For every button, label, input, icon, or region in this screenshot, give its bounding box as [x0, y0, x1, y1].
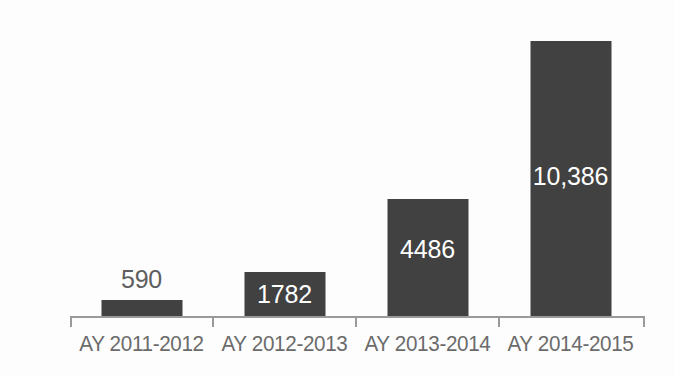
- x-axis-label-1: AY 2012-2013: [216, 333, 353, 357]
- bar-0[interactable]: [101, 300, 182, 317]
- x-axis-label-3: AY 2014-2015: [502, 333, 639, 357]
- bar-slot-3: 10,386: [499, 0, 642, 317]
- bar-slot-0: 590: [70, 0, 213, 317]
- x-axis-labels: AY 2011-2012 AY 2012-2013 AY 2013-2014 A…: [0, 333, 675, 373]
- bar-value-label-3: 10,386: [533, 164, 608, 189]
- plot-area: 590 1782 4486 10,386: [0, 0, 675, 317]
- x-axis-tick-end: [643, 316, 645, 327]
- bar-slot-1: 1782: [213, 0, 356, 317]
- x-axis-tick-1: [212, 316, 214, 327]
- bar-value-label-1: 1782: [257, 282, 312, 307]
- x-axis-tick-2: [355, 316, 357, 327]
- bar-value-label-0: 590: [121, 267, 162, 292]
- x-axis-label-2: AY 2013-2014: [359, 333, 496, 357]
- x-axis-label-0: AY 2011-2012: [73, 333, 210, 357]
- bar-value-label-2: 4486: [400, 237, 455, 262]
- x-axis-line: [70, 316, 645, 318]
- bar-chart: 590 1782 4486 10,386 AY 2011-2012 AY 201…: [0, 0, 675, 377]
- bar-slot-2: 4486: [356, 0, 499, 317]
- x-axis-tick-3: [498, 316, 500, 327]
- x-axis-tick-start: [70, 316, 72, 327]
